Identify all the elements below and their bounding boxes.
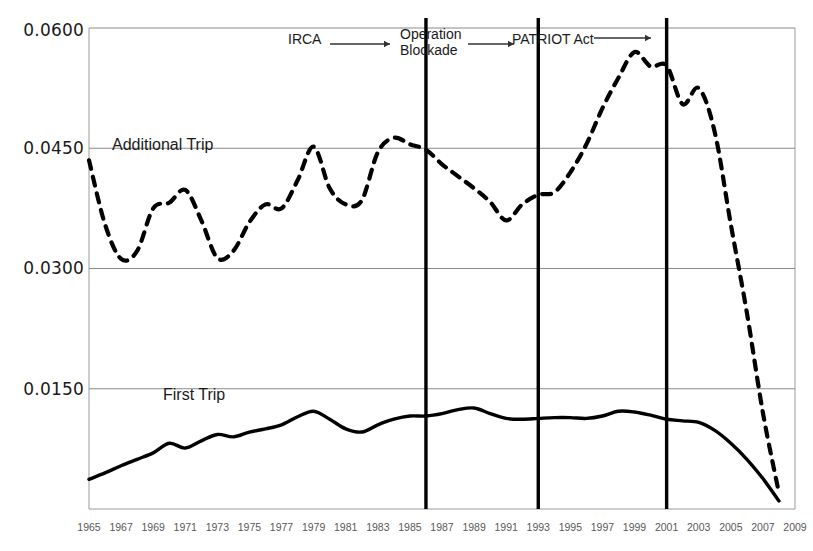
annotation-arrow-patriot-act [594, 35, 651, 41]
series-label-additional-trip: Additional Trip [112, 136, 213, 154]
chart-container: 0.0600 0.0450 0.0300 0.0150 Additional T… [0, 0, 813, 551]
series-label-first-trip: First Trip [163, 386, 225, 404]
plot-area [0, 0, 813, 551]
annotation-label-patriot-act: PATRIOT Act [512, 31, 594, 47]
series-line-first-trip [89, 408, 779, 501]
series-line-additional-trip [89, 52, 779, 493]
annotation-arrow-irca [330, 41, 390, 47]
x-axis-tick-label: 2009 [775, 521, 813, 533]
annotation-arrow-operation-blockade [468, 41, 514, 47]
annotation-label-irca: IRCA [288, 31, 321, 47]
annotation-label-operation-blockade: Operation Blockade [400, 26, 461, 58]
